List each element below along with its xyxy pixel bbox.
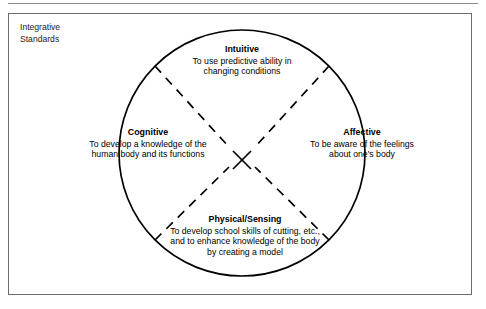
quadrant-affective-title: Affective <box>282 127 442 139</box>
quadrant-physical-sensing-body: To develop school skills of cutting, etc… <box>122 226 368 258</box>
quadrant-physical-sensing-title: Physical/Sensing <box>122 214 368 226</box>
quadrant-physical-sensing: Physical/Sensing To develop school skill… <box>122 214 368 257</box>
quadrant-cognitive-body: To develop a knowledge of the human body… <box>62 139 234 160</box>
quadrant-intuitive-title: Intuitive <box>152 44 332 56</box>
quadrant-intuitive-body: To use predictive ability in changing co… <box>152 56 332 77</box>
figure-page: Integrative Standards Intuitive To use p… <box>0 0 486 309</box>
quadrant-cognitive-title: Cognitive <box>62 127 234 139</box>
quadrant-affective: Affective To be aware of the feelings ab… <box>282 127 442 160</box>
quadrant-affective-body: To be aware of the feelings about one's … <box>282 139 442 160</box>
quadrant-intuitive: Intuitive To use predictive ability in c… <box>152 44 332 77</box>
quadrant-cognitive: Cognitive To develop a knowledge of the … <box>62 127 234 160</box>
